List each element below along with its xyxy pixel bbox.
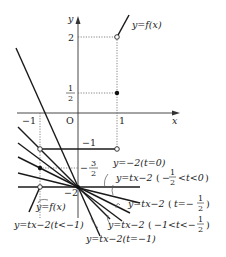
y-tick-2: 2 <box>68 32 74 43</box>
open-point-1-neg1 <box>115 147 120 152</box>
svg-text:−: − <box>162 172 170 183</box>
x-tick-1: 1 <box>119 115 125 126</box>
x-tick-neg1: −1 <box>22 115 36 126</box>
label-f-bottom: y=f(x) <box>35 201 66 212</box>
open-point-neg1-neg1 <box>38 147 43 152</box>
origin-label: O <box>66 115 74 126</box>
y-tick-half: 1 2 <box>66 84 75 103</box>
svg-text:(: ( <box>148 219 152 230</box>
y-axis-label: y <box>67 13 74 24</box>
line-t-neg-three-quarter <box>18 143 122 221</box>
svg-text:y=tx−2: y=tx−2 <box>107 219 145 230</box>
label-t-neg-half: y=tx−2 ( t=− 1 2 ) <box>127 194 210 213</box>
svg-text:−1<t<−: −1<t<− <box>154 219 196 230</box>
svg-text:3: 3 <box>91 159 96 168</box>
y-tick-neg1: −1 <box>82 137 96 148</box>
label-t-neg-half-to-zero: y=tx−2 ( − 1 2 <t<0 ) <box>115 168 209 187</box>
svg-text:(: ( <box>156 172 160 183</box>
function-f <box>29 15 129 212</box>
svg-text:y=tx−2: y=tx−2 <box>115 172 153 183</box>
svg-text:(: ( <box>168 198 172 209</box>
svg-text:<t<0: <t<0 <box>178 172 204 183</box>
svg-text:1: 1 <box>198 194 203 203</box>
svg-text:−: − <box>80 162 88 173</box>
function-graph-diagram: y x O −1 1 2 1 2 −1 − 3 2 −2 y=f(x) y=f(… <box>0 0 226 257</box>
svg-text:2: 2 <box>170 178 175 187</box>
svg-text:2: 2 <box>91 169 96 178</box>
open-point-neg1-neg2 <box>38 185 43 190</box>
svg-text:y=tx−2: y=tx−2 <box>127 198 165 209</box>
label-t-zero: y=−2(t=0) <box>112 157 166 168</box>
f-right-branch <box>117 15 129 37</box>
label-t-neg-one: y=tx−2(t=−1) <box>85 233 156 244</box>
y-tick-neg-three-halves: − 3 2 <box>80 159 98 178</box>
closed-point-neg1-neg32 <box>38 166 42 170</box>
svg-text:1: 1 <box>170 168 175 177</box>
closed-point-1-half <box>115 91 119 95</box>
svg-text:1: 1 <box>68 84 73 93</box>
x-axis-label: x <box>172 115 178 126</box>
svg-text:): ) <box>205 172 209 183</box>
open-point-1-2 <box>115 35 120 40</box>
svg-text:2: 2 <box>198 204 203 213</box>
svg-text:2: 2 <box>198 225 203 234</box>
svg-text:2: 2 <box>68 94 73 103</box>
svg-text:): ) <box>206 219 210 230</box>
svg-text:t=−: t=− <box>174 198 194 209</box>
y-axis-arrow-icon <box>76 16 81 24</box>
label-t-lt-neg-one: y=tx−2(t<−1) <box>13 219 84 230</box>
label-f-top: y=f(x) <box>131 19 162 30</box>
svg-text:): ) <box>206 198 210 209</box>
label-t-neg-one-to-neg-half: y=tx−2 ( −1<t<− 1 2 ) <box>107 215 210 234</box>
svg-text:1: 1 <box>198 215 203 224</box>
y-tick-neg2: −2 <box>64 187 78 198</box>
